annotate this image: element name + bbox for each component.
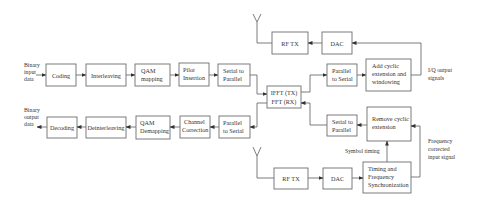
svg-text:data: data xyxy=(24,121,34,127)
arrow-fft-to-p2s-rx xyxy=(250,103,267,127)
arrow-ifft-to-p2s xyxy=(301,75,327,92)
antenna-tx-icon xyxy=(253,14,261,22)
svg-text:to Serial: to Serial xyxy=(223,127,244,134)
decoding-block: Decoding xyxy=(47,117,77,138)
coding-block: Coding xyxy=(46,64,76,86)
svg-text:Binary: Binary xyxy=(24,107,40,113)
svg-text:windowing: windowing xyxy=(372,78,400,85)
remove-cyclic-block: Remove cyclic extension xyxy=(367,107,411,141)
svg-text:Synchronization: Synchronization xyxy=(368,181,409,188)
arrow-timing-to-remove-cyclic-freq xyxy=(411,126,420,177)
svg-text:input: input xyxy=(24,69,36,75)
rf-tx-top-block: RF TX xyxy=(272,32,308,54)
channel-correction-block: Channel Correction xyxy=(180,116,210,138)
svg-text:extension and: extension and xyxy=(372,70,407,77)
svg-text:extension: extension xyxy=(372,123,396,130)
arrow-s2p-rx-to-fft xyxy=(301,103,327,125)
svg-text:output: output xyxy=(24,114,39,120)
add-cyclic-block: Add cyclic extension and windowing xyxy=(366,59,411,91)
svg-text:FFT (RX): FFT (RX) xyxy=(272,98,297,106)
svg-text:Add cyclic: Add cyclic xyxy=(372,62,399,69)
svg-text:Deinterleaving: Deinterleaving xyxy=(88,124,125,131)
timing-sync-block: Timing and Frequency Synchronization xyxy=(363,162,411,193)
svg-text:Binary: Binary xyxy=(24,62,40,68)
svg-text:Interleaving: Interleaving xyxy=(91,72,121,79)
antenna-rx-icon xyxy=(253,147,261,156)
svg-text:Parallel: Parallel xyxy=(223,119,242,126)
freq-corrected-label: Frequency corrected input signal xyxy=(428,138,456,160)
svg-text:DAC: DAC xyxy=(330,40,343,47)
interleaving-block: Interleaving xyxy=(86,64,126,86)
svg-text:Insertion: Insertion xyxy=(183,74,205,81)
svg-text:Remove cyclic: Remove cyclic xyxy=(372,115,409,122)
svg-text:Serial to: Serial to xyxy=(223,67,244,74)
svg-text:Timing and: Timing and xyxy=(368,165,397,172)
iq-output-label: I/Q output signals xyxy=(428,67,452,81)
parallel-to-serial-rx-block: Parallel to Serial xyxy=(219,116,250,138)
svg-text:I/Q output: I/Q output xyxy=(428,67,452,73)
svg-text:Parallel: Parallel xyxy=(332,67,351,74)
serial-to-parallel-rx-block: Serial to Parallel xyxy=(327,115,357,136)
svg-text:input signal: input signal xyxy=(428,154,456,160)
svg-text:data: data xyxy=(24,76,34,82)
svg-text:RF TX: RF TX xyxy=(282,175,300,182)
parallel-to-serial-tx-block: Parallel to Serial xyxy=(327,64,357,86)
binary-output-label: Binary output data xyxy=(24,107,40,127)
dac-rx-block: DAC xyxy=(323,168,352,189)
svg-text:Channel: Channel xyxy=(184,118,205,125)
svg-text:Serial to: Serial to xyxy=(332,118,353,125)
svg-text:QAM: QAM xyxy=(141,67,156,74)
symbol-timing-label: Symbol timing xyxy=(345,148,380,154)
svg-text:Parallel: Parallel xyxy=(332,126,351,133)
ofdm-block-diagram: Binary input data Coding Interleaving QA… xyxy=(0,0,479,206)
svg-text:Demapping: Demapping xyxy=(140,127,169,134)
serial-to-parallel-tx-block: Serial to Parallel xyxy=(218,64,250,86)
svg-text:Correction: Correction xyxy=(182,126,208,133)
svg-text:Coding: Coding xyxy=(52,72,70,79)
binary-input-label: Binary input data xyxy=(24,62,40,82)
line-antenna-to-rftx xyxy=(257,156,274,178)
svg-text:Frequency: Frequency xyxy=(368,173,395,180)
qam-mapping-block: QAM mapping xyxy=(135,64,170,86)
ifft-fft-block: IFFT (TX) FFT (RX) xyxy=(267,86,301,108)
svg-text:DAC: DAC xyxy=(331,175,344,182)
svg-text:RF TX: RF TX xyxy=(281,40,299,47)
line-rftx-to-antenna xyxy=(257,22,272,43)
svg-text:Decoding: Decoding xyxy=(50,124,74,131)
svg-text:Pilot: Pilot xyxy=(183,66,195,73)
svg-text:IFFT (TX): IFFT (TX) xyxy=(271,89,298,97)
deinterleaving-block: Deinterleaving xyxy=(86,117,126,138)
dac-tx-block: DAC xyxy=(322,32,352,54)
svg-text:to Serial: to Serial xyxy=(332,75,353,82)
svg-text:Parallel: Parallel xyxy=(223,75,242,82)
svg-text:signals: signals xyxy=(428,75,445,81)
svg-text:Frequency: Frequency xyxy=(428,138,453,144)
svg-text:corrected: corrected xyxy=(428,146,450,152)
svg-text:QAM: QAM xyxy=(140,119,155,126)
svg-text:mapping: mapping xyxy=(141,75,163,82)
rf-tx-bottom-block: RF TX xyxy=(274,168,308,189)
pilot-insertion-block: Pilot Insertion xyxy=(179,63,209,86)
arrow-s2p-to-ifft xyxy=(250,75,267,94)
qam-demapping-block: QAM Demapping xyxy=(136,116,170,139)
